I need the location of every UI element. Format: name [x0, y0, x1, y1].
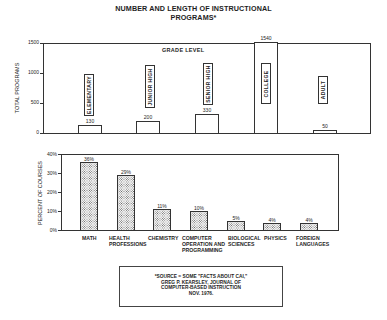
chart-title-line1: NUMBER AND LENGTH OF INSTRUCTIONAL	[0, 4, 387, 13]
chart-title: NUMBER AND LENGTH OF INSTRUCTIONAL PROGR…	[0, 4, 387, 22]
tick-mark	[58, 192, 61, 193]
bar-physics	[263, 223, 281, 230]
chart-title-line2: PROGRAMS*	[0, 13, 387, 22]
label-college: COLLEGE	[261, 63, 271, 104]
source-line4: NOV. 1976.	[120, 291, 282, 297]
value-computer-operation: 10%	[184, 205, 214, 211]
label-adult-text: ADULT	[320, 81, 326, 100]
label-senior-high: SENIOR HIGH	[203, 63, 213, 105]
category-math: MATH	[82, 236, 97, 242]
source-note: *SOURCE = SOME "FACTS ABOUT CAI," GREG P…	[119, 266, 283, 307]
value-math: 36%	[74, 156, 104, 162]
tick-mark	[40, 73, 43, 74]
y-tick-1000: 1000	[17, 69, 39, 75]
bar-elementary	[78, 125, 102, 133]
category-foreign-languages: FOREIGN LANGUAGES	[296, 236, 329, 248]
tick-mark	[58, 173, 61, 174]
label-adult: ADULT	[318, 76, 328, 104]
value-elementary: 130	[75, 118, 105, 124]
tick-mark	[40, 43, 43, 44]
bar-computer-operation	[190, 211, 208, 230]
label-junior-high: JUNIOR HIGH	[145, 65, 155, 108]
grade-chart-y-axis-label: TOTAL PROGRAMS	[14, 58, 20, 118]
label-senior-high-text: SENIOR HIGH	[205, 65, 211, 102]
tick-mark	[40, 103, 43, 104]
tick-mark	[58, 230, 61, 231]
value-foreign-languages: 4%	[294, 217, 324, 223]
y-tick-0pct: 0%	[35, 227, 57, 233]
y-tick-20: 20%	[35, 189, 57, 195]
bar-senior-high	[195, 114, 219, 133]
y-tick-30: 30%	[35, 170, 57, 176]
tick-mark	[58, 154, 61, 155]
tick-mark	[58, 211, 61, 212]
category-computer-operation: COMPUTER OPERATION AND PROGRAMMING	[182, 236, 225, 253]
category-physics: PHYSICS	[264, 236, 287, 242]
label-elementary-text: ELEMENTARY	[86, 76, 92, 114]
category-chemistry: CHEMISTRY	[148, 236, 178, 242]
bar-adult	[313, 130, 337, 133]
grade-level-heading: GRADE LEVEL	[162, 47, 204, 53]
value-chemistry: 11%	[147, 203, 177, 209]
value-senior-high: 330	[192, 107, 222, 113]
bar-foreign-languages	[300, 223, 318, 230]
bar-chemistry	[153, 209, 171, 230]
value-adult: 50	[310, 123, 340, 129]
category-biological-sciences: BIOLOGICAL SCIENCES	[228, 236, 261, 248]
value-college: 1540	[251, 35, 281, 41]
tick-mark	[40, 133, 43, 134]
y-tick-500: 500	[17, 99, 39, 105]
bar-junior-high	[136, 121, 160, 133]
y-tick-1500: 1500	[17, 39, 39, 45]
bar-health-professions	[117, 175, 135, 230]
y-tick-10: 10%	[35, 208, 57, 214]
bar-math	[80, 162, 98, 230]
value-physics: 4%	[257, 217, 287, 223]
bar-biological-sciences	[227, 221, 245, 230]
value-health-professions: 29%	[111, 169, 141, 175]
label-college-text: COLLEGE	[263, 70, 269, 97]
y-tick-40: 40%	[35, 151, 57, 157]
value-biological-sciences: 5%	[221, 215, 251, 221]
label-junior-high-text: JUNIOR HIGH	[147, 68, 153, 105]
y-tick-0: 0	[17, 129, 39, 135]
category-health-professions: HEALTH PROFESSIONS	[109, 236, 146, 248]
value-junior-high: 200	[133, 114, 163, 120]
label-elementary: ELEMENTARY	[84, 74, 94, 116]
